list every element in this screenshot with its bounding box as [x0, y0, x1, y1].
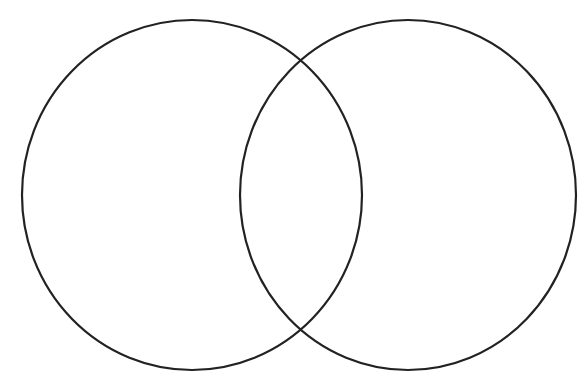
- venn-diagram: [0, 0, 586, 389]
- venn-circle-right: [240, 20, 576, 370]
- venn-circle-left: [22, 20, 362, 370]
- venn-diagram-canvas: [0, 0, 586, 389]
